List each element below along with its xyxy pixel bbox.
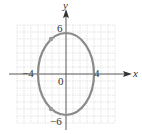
tick-neg4: −4: [22, 68, 34, 79]
direction-marker-lower: [49, 107, 53, 111]
x-axis-label: x: [133, 68, 138, 79]
tick-4: 4: [94, 68, 100, 79]
y-axis-label: y: [63, 0, 68, 11]
direction-marker-upper: [49, 37, 53, 41]
tick-6: 6: [57, 23, 63, 34]
tick-0: 0: [58, 76, 64, 87]
tick-neg6: −6: [50, 116, 62, 127]
